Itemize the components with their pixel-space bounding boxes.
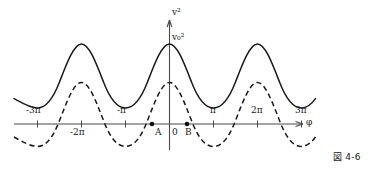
plot-canvas [0,0,380,173]
origin-label: 0 [172,128,178,137]
x-tick-label-3pi: 3π [295,106,307,115]
dashed-curve [14,82,316,146]
figure-caption: 図 4-6 [333,150,361,163]
x-tick-label--3pi: -3π [26,106,41,115]
x-axis-label: φ [306,118,312,127]
x-tick-label-2pi: 2π [251,106,263,115]
x-tick-label--2pi: -2π [70,128,85,137]
point-b-label: B [185,128,192,137]
point-a-label: A [155,128,162,137]
point-a-marker [150,122,155,127]
y-axis-label: v² [172,8,181,17]
point-b-marker [185,122,190,127]
solid-curve [14,44,316,108]
peak-value-label: v₀² [172,33,184,42]
x-tick-label-1pi: π [210,106,216,115]
x-tick-label--1pi: -π [117,106,126,115]
figure-container: v² v₀² φ -3π -2π -π π 2π 3π A 0 B 図 4-6 [0,0,380,173]
